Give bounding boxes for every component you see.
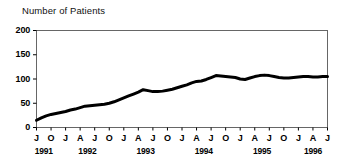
y-tick-label: 100 — [4, 74, 30, 84]
x-tick-label-month: J — [118, 133, 130, 143]
x-tick-label-month: O — [220, 133, 232, 143]
x-tick-label-year: 1994 — [187, 146, 221, 156]
x-tick-label-month: J — [147, 133, 159, 143]
x-tick-label-month: O — [103, 133, 115, 143]
x-tick-label-year: 1996 — [296, 146, 330, 156]
x-tick-label-month: A — [249, 133, 261, 143]
x-tick-label-month: O — [161, 133, 173, 143]
y-tick-label: 50 — [4, 98, 30, 108]
x-tick-label-month: J — [89, 133, 101, 143]
x-tick-label-month: A — [191, 133, 203, 143]
x-tick-label-month: A — [307, 133, 319, 143]
x-tick-label-month: J — [322, 133, 334, 143]
x-tick-label-month: A — [74, 133, 86, 143]
x-axis-ticks — [37, 128, 328, 131]
x-tick-label-month: J — [176, 133, 188, 143]
x-tick-label-year: 1991 — [27, 146, 61, 156]
y-tick-label: 200 — [4, 25, 30, 35]
x-tick-label-month: A — [132, 133, 144, 143]
x-tick-label-year: 1995 — [245, 146, 279, 156]
x-tick-label-month: J — [31, 133, 43, 143]
x-tick-label-month: J — [205, 133, 217, 143]
x-tick-label-month: J — [292, 133, 304, 143]
x-tick-label-month: O — [278, 133, 290, 143]
y-tick-label: 150 — [4, 49, 30, 59]
y-axis-ticks — [33, 31, 37, 128]
y-tick-label: 0 — [4, 122, 30, 132]
x-tick-label-year: 1992 — [70, 146, 104, 156]
x-tick-label-month: J — [234, 133, 246, 143]
x-tick-label-month: J — [263, 133, 275, 143]
patients-trend-line — [37, 75, 328, 120]
chart-figure: Number of Patients 050100150200 JOJAJOJA… — [0, 0, 344, 163]
x-tick-label-month: J — [60, 133, 72, 143]
x-tick-label-year: 1993 — [129, 146, 163, 156]
x-tick-label-month: O — [45, 133, 57, 143]
